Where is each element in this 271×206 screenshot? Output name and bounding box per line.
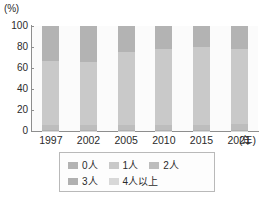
legend-label: 2人 [163, 160, 179, 171]
bar-2021 [231, 26, 248, 131]
legend-item: 4人以上 [109, 176, 159, 187]
legend-swatch-icon [68, 178, 78, 185]
legend-item: 1人 [109, 160, 139, 171]
y-tick-mark [31, 68, 34, 69]
bar-segment-0人 [80, 26, 97, 62]
y-tick-mark [31, 110, 34, 111]
x-axis-unit-label: (年) [239, 134, 256, 146]
legend-label: 1人 [123, 160, 139, 171]
bar-segment-1人 [118, 52, 135, 124]
legend-swatch-icon [68, 162, 78, 169]
legend-item: 3人 [68, 176, 98, 187]
bar-segment-0人 [155, 26, 172, 49]
bar-2002 [80, 26, 97, 131]
y-tick-mark [31, 26, 34, 27]
legend-row-1: 0人1人2人 [68, 157, 208, 173]
chart-legend: 0人1人2人 3人4人以上 [59, 152, 215, 192]
legend-label: 3人 [82, 176, 98, 187]
bar-1997 [42, 26, 59, 131]
x-tick-label: 2005 [108, 134, 144, 146]
bar-segment-0人 [42, 26, 59, 61]
y-tick-mark [31, 89, 34, 90]
bar-segment-1人 [231, 49, 248, 124]
chart-figure: (%) 020406080100 19972002200520102015202… [0, 0, 271, 206]
legend-item: 2人 [149, 160, 179, 171]
bar-2010 [155, 26, 172, 131]
legend-swatch-icon [109, 162, 119, 169]
legend-swatch-icon [149, 162, 159, 169]
legend-label: 4人以上 [123, 176, 159, 187]
x-tick-label: 2010 [146, 134, 182, 146]
bar-segment-1人 [42, 61, 59, 124]
y-tick-mark [31, 47, 34, 48]
x-tick-label: 2002 [71, 134, 107, 146]
x-tick-label: 1997 [33, 134, 69, 146]
bar-segment-0人 [193, 26, 210, 47]
bar-segment-1人 [155, 49, 172, 125]
bar-2005 [118, 26, 135, 131]
bar-2015 [193, 26, 210, 131]
bar-segment-0人 [118, 26, 135, 52]
legend-row-2: 3人4人以上 [68, 173, 208, 189]
legend-label: 0人 [82, 160, 98, 171]
bar-segment-0人 [231, 26, 248, 49]
y-tick-mark [31, 131, 34, 132]
bar-segment-1人 [80, 62, 97, 124]
bar-segment-1人 [193, 47, 210, 125]
legend-item: 0人 [68, 160, 98, 171]
x-tick-label: 2015 [184, 134, 220, 146]
legend-swatch-icon [109, 178, 119, 185]
